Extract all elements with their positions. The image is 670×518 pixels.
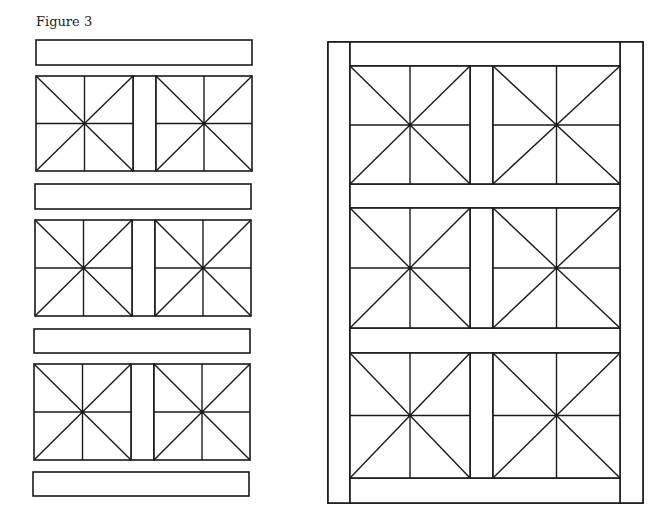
block-center-point xyxy=(555,414,559,418)
block-center-point xyxy=(408,414,412,418)
side-border xyxy=(620,42,643,503)
sashing-strip xyxy=(35,184,251,209)
block-row xyxy=(350,66,620,184)
star-block xyxy=(35,220,132,316)
vertical-sash xyxy=(470,208,493,328)
star-block xyxy=(350,66,470,184)
block-center-point xyxy=(81,410,85,414)
horizontal-sashing xyxy=(350,478,620,503)
vertical-sash xyxy=(133,76,156,171)
sashing-strip xyxy=(34,329,250,353)
star-block xyxy=(36,76,133,171)
star-block xyxy=(493,66,620,184)
block-center-point xyxy=(200,410,204,414)
side-border xyxy=(328,42,350,503)
sashing-strip xyxy=(33,472,249,496)
star-block xyxy=(156,76,252,171)
horizontal-sashing xyxy=(350,42,620,66)
horizontal-sashing xyxy=(350,328,620,353)
star-block xyxy=(34,364,131,460)
block-center-point xyxy=(555,266,559,270)
block-row xyxy=(36,76,252,171)
block-row xyxy=(34,364,250,460)
block-row xyxy=(350,353,620,478)
block-center-point xyxy=(408,266,412,270)
block-center-point xyxy=(202,122,206,126)
quilt-diagram xyxy=(0,0,670,518)
block-center-point xyxy=(555,123,559,127)
star-block xyxy=(350,353,470,478)
block-center-point xyxy=(201,266,205,270)
assembled-quilt xyxy=(328,42,643,503)
block-row xyxy=(350,208,620,328)
vertical-sash xyxy=(132,220,155,316)
star-block xyxy=(493,208,620,328)
horizontal-sashing xyxy=(350,184,620,208)
vertical-sash xyxy=(131,364,154,460)
block-center-point xyxy=(82,266,86,270)
block-row xyxy=(35,220,251,316)
block-center-point xyxy=(408,123,412,127)
star-block xyxy=(155,220,251,316)
star-block xyxy=(154,364,250,460)
sashing-strip xyxy=(36,40,252,65)
block-center-point xyxy=(83,122,87,126)
vertical-sash xyxy=(470,353,493,478)
star-block xyxy=(493,353,620,478)
exploded-quilt-rows xyxy=(33,40,252,496)
star-block xyxy=(350,208,470,328)
vertical-sash xyxy=(470,66,493,184)
